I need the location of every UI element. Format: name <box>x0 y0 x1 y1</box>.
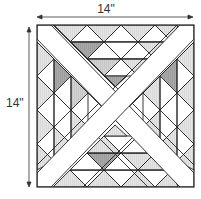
quilt-block-diagram <box>0 0 201 199</box>
quilt-block <box>0 25 201 187</box>
height-dimension-arrow <box>27 27 31 187</box>
width-dimension-arrow <box>37 15 193 19</box>
